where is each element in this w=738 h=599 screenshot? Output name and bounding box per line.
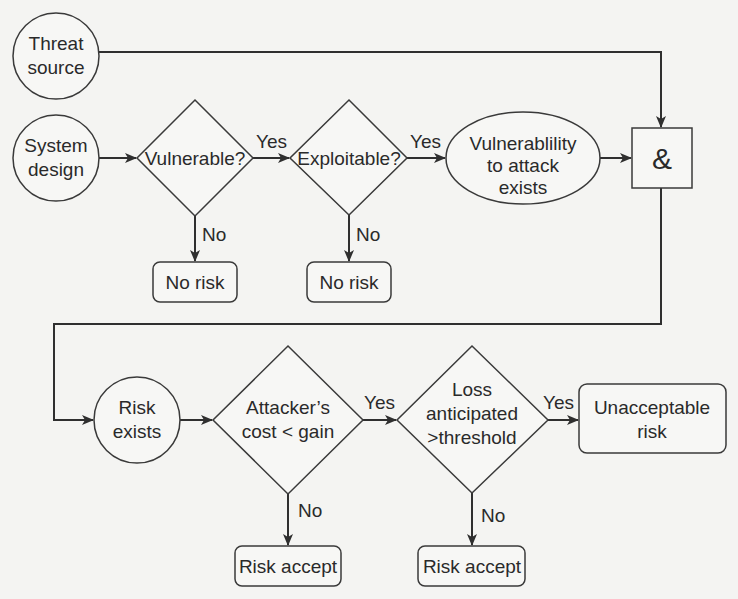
node-cost-gain-decision: Attacker’s cost < gain (213, 346, 363, 494)
node-unacceptable-risk: Unacceptable risk (579, 384, 726, 453)
node-label: No risk (319, 272, 379, 293)
node-label: source (27, 57, 84, 78)
edge-label-yes: Yes (410, 131, 441, 152)
node-system-design: System design (13, 115, 99, 201)
node-label: exists (499, 177, 548, 198)
node-label: to attack (487, 155, 559, 176)
node-label: Threat (29, 33, 85, 54)
node-label: Unacceptable (594, 397, 710, 418)
node-label: Risk accept (423, 556, 522, 577)
node-risk-exists: Risk exists (94, 377, 180, 463)
and-symbol: & (652, 142, 672, 175)
node-label: Vulnerable? (145, 148, 246, 169)
flowchart-canvas: Threat source System design Vulnerable? … (0, 0, 738, 599)
node-label: >threshold (427, 427, 516, 448)
node-label: anticipated (426, 403, 518, 424)
node-no-risk-2: No risk (307, 262, 391, 302)
edge-label-no: No (298, 500, 322, 521)
node-vulnerable-decision: Vulnerable? (137, 100, 253, 216)
node-loss-threshold-decision: Loss anticipated >threshold (397, 346, 548, 493)
node-label: No risk (165, 272, 225, 293)
node-label: Exploitable? (297, 148, 401, 169)
node-threat-source: Threat source (13, 13, 99, 99)
edge-label-no: No (356, 224, 380, 245)
node-label: design (28, 159, 84, 180)
node-label: Loss (452, 379, 492, 400)
edge-label-yes: Yes (256, 131, 287, 152)
node-and-gate: & (632, 128, 692, 188)
node-vulnerability-exists: Vulnerablility to attack exists (446, 112, 600, 204)
node-label: cost < gain (242, 421, 334, 442)
node-label: Attacker’s (246, 397, 330, 418)
node-exploitable-decision: Exploitable? (290, 100, 407, 215)
node-label: exists (113, 421, 162, 442)
node-label: risk (637, 421, 667, 442)
node-label: Vulnerablility (469, 133, 577, 154)
edge-label-no: No (202, 224, 226, 245)
edge-label-yes: Yes (364, 392, 395, 413)
node-label: Risk (119, 397, 156, 418)
edge-label-yes: Yes (543, 392, 574, 413)
node-label: System (24, 135, 87, 156)
node-risk-accept-1: Risk accept (235, 546, 341, 586)
node-no-risk-1: No risk (153, 262, 237, 302)
node-risk-accept-2: Risk accept (418, 546, 525, 586)
edge-label-no: No (481, 505, 505, 526)
node-label: Risk accept (239, 556, 338, 577)
